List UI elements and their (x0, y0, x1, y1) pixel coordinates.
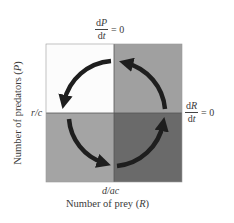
y-axis-title: Number of predators (P) (12, 61, 23, 165)
quadrant-top-right (114, 44, 182, 113)
y-axis-title-text: Number of predators ( (12, 71, 23, 165)
predator-isocline-equals: = 0 (111, 25, 124, 35)
x-axis-title-close: ) (146, 198, 150, 209)
prey-isocline-denominator: dt (187, 113, 197, 124)
prey-isocline-equals: = 0 (201, 108, 214, 118)
prey-isocline-numerator: dR (185, 101, 198, 113)
quadrant-bottom-right (114, 113, 182, 182)
y-axis-tick-label: r/c (31, 108, 42, 118)
prey-isocline-label: dR dt = 0 (185, 101, 214, 124)
quadrant-top-left (46, 44, 114, 113)
x-axis-title: Number of prey (R) (66, 199, 149, 210)
predator-isocline-label: dP dt = 0 (95, 18, 124, 41)
y-axis-variable: P (12, 65, 23, 71)
y-axis-title-close: ) (12, 61, 23, 65)
x-axis-title-text: Number of prey ( (66, 198, 139, 209)
predator-isocline-numerator: dP (95, 18, 108, 30)
x-axis-tick-label: d/ac (102, 186, 119, 196)
phase-plane-diagram: dP dt = 0 dR dt = 0 r/c d/ac Number of p… (0, 0, 234, 223)
predator-isocline-denominator: dt (97, 30, 107, 41)
